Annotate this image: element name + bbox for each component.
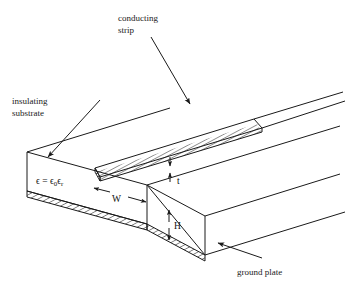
width-dimension-label: W — [112, 194, 121, 204]
slab-bottom-front-right-edge — [205, 212, 345, 255]
strip-ext-front-line — [262, 101, 345, 128]
insulating-substrate-leader — [48, 100, 100, 157]
slab-front-right-back-edge — [205, 174, 340, 216]
strip-top-back-edge — [95, 119, 254, 168]
conducting-strip — [95, 119, 262, 181]
strip-side-face-hatch — [95, 124, 262, 181]
slab-top-back-left-edge — [27, 108, 170, 152]
substrate-slab — [27, 108, 345, 255]
thickness-dimension: t — [170, 157, 180, 186]
insulating-substrate-label-line1: insulating — [12, 96, 48, 106]
slab-front-right-top-edge — [147, 185, 205, 216]
conducting-strip-label-line1: conducting — [118, 13, 158, 23]
ground-plate-leader — [218, 243, 262, 258]
height-dimension-label: H — [174, 221, 181, 231]
microstrip-diagram: conducting strip insulating substrate gr… — [0, 0, 347, 286]
microstrip-diagram-svg: conducting strip insulating substrate gr… — [0, 0, 347, 286]
permittivity-expression: ϵ = ϵ0ϵr — [36, 176, 64, 187]
ground-plate-label: ground plate — [237, 267, 282, 277]
width-dimension: W — [94, 188, 146, 204]
conducting-strip-label-line2: strip — [118, 25, 135, 35]
insulating-substrate-label-line2: substrate — [12, 108, 44, 118]
thickness-dimension-label: t — [177, 176, 180, 186]
conducting-strip-leader — [151, 37, 190, 104]
svg-text:ϵ = ϵ0ϵr: ϵ = ϵ0ϵr — [36, 176, 64, 187]
strip-extension-lines — [254, 92, 345, 128]
epsilon-r-sub: r — [61, 180, 64, 187]
